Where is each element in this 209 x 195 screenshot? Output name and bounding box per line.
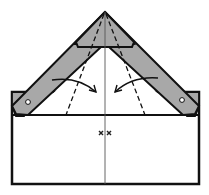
right-pivot-dot — [180, 98, 185, 103]
diagram-canvas — [0, 0, 209, 195]
origami-diagram: × × — [0, 0, 209, 195]
left-pivot-dot — [26, 100, 31, 105]
